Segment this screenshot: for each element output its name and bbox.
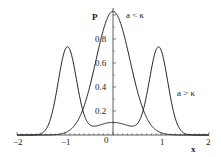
plot-canvas	[0, 0, 221, 157]
annotation-a-less-kappa: a < κ	[126, 11, 144, 20]
x-tick-1: 1	[160, 138, 165, 147]
x-tick-minus-1: −1	[61, 138, 71, 147]
x-axis-label: x	[191, 145, 196, 154]
y-tick-0.4: 0.4	[95, 83, 106, 92]
y-axis-label: P	[92, 13, 98, 22]
y-tick-0.8: 0.8	[95, 35, 106, 44]
x-tick-2: 2	[206, 138, 211, 147]
x-tick-origin: 0	[104, 136, 109, 145]
x-tick-minus-2: −2	[13, 138, 23, 147]
y-tick-0.6: 0.6	[95, 59, 106, 68]
annotation-a-greater-kappa: a > κ	[177, 89, 195, 98]
y-tick-0.2: 0.2	[95, 107, 106, 116]
